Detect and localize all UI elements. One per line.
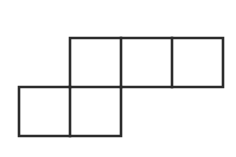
- square-top-3-face: [172, 38, 223, 87]
- figure-canvas: [0, 0, 236, 157]
- square-bottom-1-face: [19, 87, 70, 136]
- square-top-2-face: [121, 38, 172, 87]
- square-net-figure: [0, 0, 236, 157]
- square-top-1-face: [70, 38, 121, 87]
- square-bottom-2-face: [70, 87, 121, 136]
